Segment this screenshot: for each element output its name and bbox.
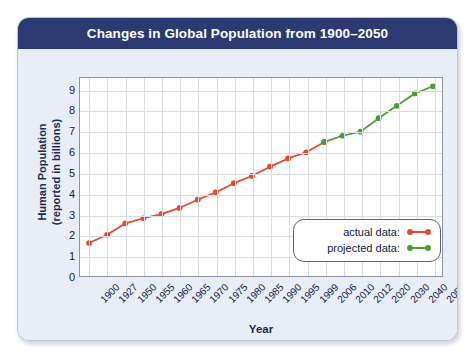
x-tick-label: 1950 — [135, 281, 159, 305]
y-tick-label: 3 — [61, 209, 75, 221]
legend-item: projected data: — [304, 240, 432, 256]
gridline-vertical — [162, 78, 163, 276]
x-tick-label: 1999 — [317, 281, 341, 305]
x-tick-label: 2010 — [353, 281, 377, 305]
gridline-vertical — [198, 78, 199, 276]
x-tick-label: 1975 — [226, 281, 250, 305]
chart-title: Changes in Global Population from 1900–2… — [87, 26, 388, 41]
gridline-horizontal — [80, 111, 442, 112]
y-tick-label: 6 — [61, 146, 75, 158]
chart-screenshot: Changes in Global Population from 1900–2… — [0, 0, 475, 358]
y-tick-label: 9 — [61, 84, 75, 96]
x-tick-label: 2030 — [408, 281, 432, 305]
gridline-horizontal — [80, 174, 442, 175]
chart-legend: actual data:projected data: — [293, 219, 441, 262]
x-tick-label: 1995 — [298, 281, 322, 305]
gridline-vertical — [253, 78, 254, 276]
y-tick-label: 5 — [61, 167, 75, 179]
gridline-vertical — [89, 78, 90, 276]
chart-header: Changes in Global Population from 1900–2… — [18, 18, 457, 49]
y-tick-label: 1 — [61, 250, 75, 262]
gridline-horizontal — [80, 91, 442, 92]
x-tick-label: 1980 — [244, 281, 268, 305]
x-tick-label: 2006 — [335, 281, 359, 305]
x-tick-label: 2020 — [389, 281, 413, 305]
legend-marker-icon — [406, 227, 432, 237]
x-tick-label: 1955 — [153, 281, 177, 305]
legend-label: actual data: — [343, 226, 400, 238]
x-tick-label: 1927 — [116, 281, 140, 305]
gridline-vertical — [107, 78, 108, 276]
gridline-vertical — [235, 78, 236, 276]
y-tick-label: 2 — [61, 229, 75, 241]
x-tick-label: 1960 — [171, 281, 195, 305]
y-axis-tick-labels: 0123456789 — [59, 77, 75, 277]
x-tick-label: 1970 — [207, 281, 231, 305]
legend-item: actual data: — [304, 224, 432, 240]
gridline-vertical — [271, 78, 272, 276]
y-axis-title-line1: Human Population — [36, 123, 48, 220]
x-tick-label: 2040 — [426, 281, 450, 305]
x-axis-title: Year — [79, 323, 443, 335]
y-tick-label: 4 — [61, 188, 75, 200]
gridline-vertical — [217, 78, 218, 276]
legend-marker-icon — [406, 243, 432, 253]
gridline-vertical — [126, 78, 127, 276]
gridline-horizontal — [80, 132, 442, 133]
gridline-vertical — [180, 78, 181, 276]
y-tick-label: 8 — [61, 104, 75, 116]
x-tick-label: 1985 — [262, 281, 286, 305]
gridline-vertical — [144, 78, 145, 276]
y-tick-label: 0 — [61, 271, 75, 283]
gridline-horizontal — [80, 153, 442, 154]
legend-label: projected data: — [327, 242, 400, 254]
x-axis-tick-labels: 1900192719501955196019651970197519801985… — [79, 278, 443, 324]
y-tick-label: 7 — [61, 125, 75, 137]
gridline-horizontal — [80, 216, 442, 217]
gridline-vertical — [289, 78, 290, 276]
chart-body: Human Population (reported in billions) … — [18, 49, 457, 341]
chart-card: Changes in Global Population from 1900–2… — [17, 17, 458, 341]
gridline-horizontal — [80, 195, 442, 196]
